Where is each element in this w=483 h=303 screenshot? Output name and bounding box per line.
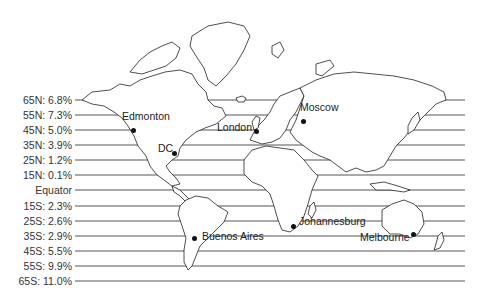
latitude-label: 65N: 6.8%: [23, 94, 72, 106]
city-label: Melbourne: [360, 231, 410, 243]
city-label: DC: [158, 142, 173, 154]
city-label: Moscow: [300, 101, 339, 113]
city-label: Johannesburg: [299, 215, 366, 227]
asia-outline: [290, 72, 446, 172]
city-dot-icon: [291, 224, 296, 229]
new-zealand-outline: [434, 232, 444, 250]
world-map: [0, 0, 483, 303]
city-label: London: [217, 121, 252, 133]
greenland-outline: [190, 22, 250, 86]
north-america-outline: [82, 70, 226, 186]
city-dot-icon: [411, 232, 416, 237]
latitude-label: 15S: 2.3%: [24, 200, 72, 212]
iceland-outline: [236, 96, 246, 102]
latitude-label: 35N: 3.9%: [23, 139, 72, 151]
latitude-label: 55N: 7.3%: [23, 109, 72, 121]
latitude-label: 35S: 2.9%: [24, 230, 72, 242]
latitude-label: 45N: 5.0%: [23, 124, 72, 136]
latitude-label: 25S: 2.6%: [24, 215, 72, 227]
svalbard-outline: [272, 42, 284, 58]
latitude-label: 15N: 0.1%: [23, 169, 72, 181]
city-dot-icon: [301, 119, 306, 124]
novaya-zemlya-outline: [316, 60, 334, 76]
city-label: Edmonton: [122, 110, 170, 122]
latitude-label: 45S: 5.5%: [24, 245, 72, 257]
latitude-label: 55S: 9.9%: [24, 260, 72, 272]
city-dot-icon: [192, 236, 197, 241]
latitude-label: 25N: 1.2%: [23, 154, 72, 166]
latitude-label: Equator: [35, 184, 72, 196]
city-label: Buenos Aires: [202, 230, 264, 242]
city-dot-icon: [254, 129, 259, 134]
latitude-label: 65S: 11.0%: [18, 275, 72, 287]
city-dot-icon: [131, 128, 136, 133]
arctic-islands-outline: [130, 42, 180, 74]
